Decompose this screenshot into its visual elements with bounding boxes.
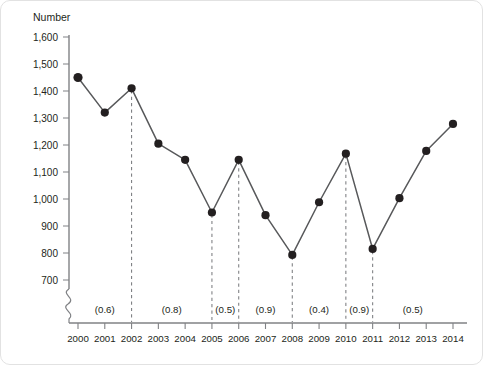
x-tick-label-2000: 2000 xyxy=(67,333,89,344)
x-tick-label-2011: 2011 xyxy=(362,333,383,344)
x-tick-label-2005: 2005 xyxy=(201,333,223,344)
data-point-2002[interactable] xyxy=(127,84,135,92)
y-tick-label: 1,500 xyxy=(33,59,58,70)
segment-annotation-2002-2005: (0.8) xyxy=(162,304,182,315)
data-point-2006[interactable] xyxy=(235,156,243,164)
data-point-2003[interactable] xyxy=(154,140,162,148)
data-point-2004[interactable] xyxy=(181,156,189,164)
data-point-2012[interactable] xyxy=(395,194,403,202)
y-tick-label: 1,300 xyxy=(33,113,58,124)
data-point-2001[interactable] xyxy=(101,109,109,117)
data-point-2013[interactable] xyxy=(422,147,430,155)
x-tick-label-2013: 2013 xyxy=(415,333,437,344)
x-tick-label-2010: 2010 xyxy=(335,333,357,344)
y-tick-label: 1,200 xyxy=(33,140,58,151)
segment-annotation-2011-2014: (0.5) xyxy=(403,304,423,315)
y-axis-break-icon xyxy=(66,289,71,323)
x-tick-label-2006: 2006 xyxy=(228,333,250,344)
y-tick-label: 900 xyxy=(41,221,58,232)
y-tick-label: 1,000 xyxy=(33,194,58,205)
data-point-2011[interactable] xyxy=(369,245,377,253)
x-tick-label-2002: 2002 xyxy=(121,333,143,344)
data-point-2010[interactable] xyxy=(342,150,350,158)
y-tick-label: 1,400 xyxy=(33,86,58,97)
x-tick-label-2003: 2003 xyxy=(148,333,170,344)
segment-annotation-2008-2010: (0.4) xyxy=(309,304,329,315)
x-tick-label-2008: 2008 xyxy=(282,333,304,344)
line-chart: Number7008009001,0001,1001,2001,3001,400… xyxy=(1,1,483,365)
data-point-2005[interactable] xyxy=(208,208,216,216)
segment-annotation-2006-2008: (0.9) xyxy=(256,304,276,315)
x-tick-label-2014: 2014 xyxy=(442,333,464,344)
segment-annotation-2010-2011: (0.9) xyxy=(349,304,369,315)
data-point-2000[interactable] xyxy=(73,73,82,82)
x-tick-label-2012: 2012 xyxy=(389,333,411,344)
x-tick-label-2004: 2004 xyxy=(174,333,196,344)
x-tick-label-2001: 2001 xyxy=(94,333,116,344)
y-tick-label: 800 xyxy=(41,248,58,259)
x-tick-label-2009: 2009 xyxy=(308,333,330,344)
data-point-2014[interactable] xyxy=(449,120,457,128)
y-tick-label: 1,100 xyxy=(33,167,58,178)
y-tick-label: 1,600 xyxy=(33,32,58,43)
segment-annotation-2000-2002: (0.6) xyxy=(95,304,115,315)
data-point-2008[interactable] xyxy=(288,251,296,259)
data-point-2007[interactable] xyxy=(261,211,269,219)
y-axis-title: Number xyxy=(33,11,71,23)
chart-card: Number7008009001,0001,1001,2001,3001,400… xyxy=(0,0,483,365)
x-tick-label-2007: 2007 xyxy=(255,333,277,344)
segment-annotation-2005-2006: (0.5) xyxy=(215,304,235,315)
y-tick-label: 700 xyxy=(41,275,58,286)
data-point-2009[interactable] xyxy=(315,198,323,206)
series-line xyxy=(78,78,453,255)
